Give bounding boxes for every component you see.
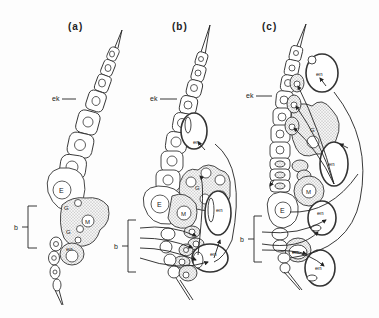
bracket-b-c: b bbox=[240, 216, 262, 262]
svg-text:E: E bbox=[59, 187, 64, 194]
bracket-b-b: b bbox=[114, 220, 136, 272]
svg-text:b: b bbox=[114, 243, 118, 250]
panel-c-label: (c) bbox=[262, 21, 277, 32]
panel-a: (a) ek E bbox=[14, 21, 122, 305]
endoderm-low-b: en bbox=[192, 244, 228, 272]
svg-text:M: M bbox=[306, 189, 311, 195]
cell-G1-label: G bbox=[64, 205, 69, 211]
svg-text:en: en bbox=[317, 210, 324, 216]
ectoderm-label-b: ek bbox=[150, 95, 158, 102]
endoderm-top-b: en bbox=[181, 113, 207, 149]
lower-chain bbox=[49, 237, 64, 305]
svg-text:M: M bbox=[181, 211, 186, 217]
endoderm-mid-b: en bbox=[205, 191, 231, 235]
endoderm-low2-c: en bbox=[305, 250, 335, 286]
ectoderm-label: ek bbox=[52, 95, 60, 102]
panel-b-label: (b) bbox=[172, 21, 188, 32]
svg-text:en: en bbox=[216, 207, 223, 213]
svg-text:E: E bbox=[157, 201, 162, 208]
svg-text:en: en bbox=[66, 246, 73, 252]
svg-text:en: en bbox=[315, 265, 322, 271]
svg-text:b: b bbox=[240, 236, 244, 243]
cell-E-c: E bbox=[267, 192, 298, 228]
cell-M-label: M bbox=[85, 219, 90, 225]
mesoderm-mass: M G G bbox=[60, 198, 109, 247]
figure-diagram: (a) ek E bbox=[0, 0, 379, 318]
panel-c: (c) ek E G bbox=[240, 21, 363, 290]
svg-text:en: en bbox=[193, 139, 200, 145]
panel-a-label: (a) bbox=[68, 21, 83, 32]
svg-text:E: E bbox=[280, 207, 285, 214]
endoderm-top-c: en bbox=[306, 54, 338, 92]
ectoderm-label-c: ek bbox=[246, 92, 254, 99]
endoderm-a: en bbox=[60, 243, 84, 265]
endoderm-upper-c: en bbox=[320, 142, 348, 186]
ectoderm-chain bbox=[58, 46, 120, 181]
svg-text:b: b bbox=[14, 224, 18, 231]
panel-b: (b) ek E G bbox=[114, 21, 236, 300]
cell-G2-label: G bbox=[66, 229, 71, 235]
svg-text:G: G bbox=[195, 185, 200, 191]
bracket-b-a: b bbox=[14, 206, 37, 248]
svg-text:en: en bbox=[316, 71, 323, 77]
ectoderm-tip bbox=[115, 30, 122, 48]
